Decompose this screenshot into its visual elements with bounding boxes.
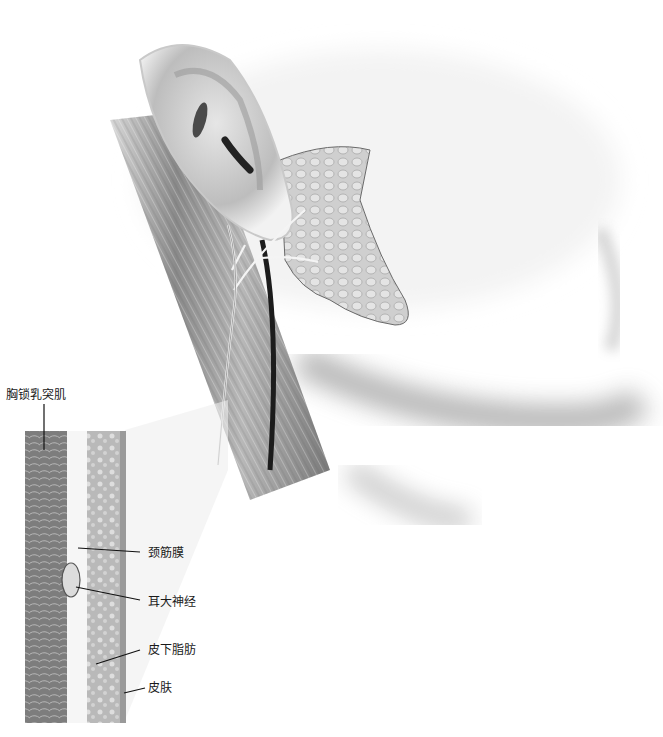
scm-section: [25, 431, 67, 723]
fat-section: [87, 431, 120, 723]
inset-projection: [125, 400, 228, 720]
label-sternocleidomastoid: 胸锁乳突肌: [6, 388, 66, 402]
label-skin: 皮肤: [148, 681, 172, 695]
label-subcutaneous-fat: 皮下脂肪: [148, 643, 196, 657]
skin-section: [120, 431, 126, 723]
label-great-auricular-nerve: 耳大神经: [148, 595, 196, 609]
label-cervical-fascia: 颈筋膜: [148, 546, 184, 560]
cross-section-inset: [25, 431, 126, 723]
illustration: [0, 0, 663, 737]
nerve-section: [62, 563, 80, 597]
anatomy-figure: 胸锁乳突肌 颈筋膜 耳大神经 皮下脂肪 皮肤: [0, 0, 663, 737]
